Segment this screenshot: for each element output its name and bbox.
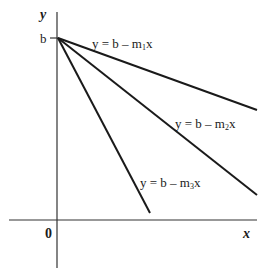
x-axis-label: x bbox=[242, 226, 250, 241]
diagram-canvas: y x 0 b y = b – m1x y = b – m2x y = b – … bbox=[0, 0, 265, 277]
origin-label: 0 bbox=[45, 226, 52, 241]
line-2-label: y = b – m2x bbox=[175, 116, 236, 132]
y-axis-label: y bbox=[38, 7, 47, 22]
line-3-label: y = b – m3x bbox=[140, 175, 201, 191]
y-intercept-label: b bbox=[40, 31, 47, 46]
line-2 bbox=[58, 38, 257, 195]
line-1 bbox=[58, 38, 257, 110]
line-3 bbox=[58, 38, 150, 213]
line-1-label: y = b – m1x bbox=[92, 36, 153, 52]
